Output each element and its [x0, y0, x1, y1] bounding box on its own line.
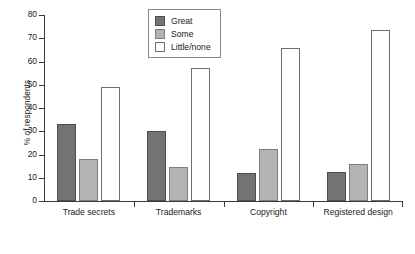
bar-great [327, 172, 346, 201]
y-axis-tick-mark [39, 155, 44, 156]
y-axis-tick-label: 60 [28, 56, 37, 67]
bar-chart: % of respondents 01020304050607080 Trade… [0, 0, 415, 254]
bar-great [237, 173, 256, 201]
legend-item-great: Great [155, 14, 211, 27]
legend-item-label: Some [171, 29, 193, 39]
y-axis-tick-mark [39, 38, 44, 39]
legend-swatch-little-icon [155, 42, 165, 52]
x-axis-category-label: Trade secrets [63, 207, 115, 217]
y-axis-tick-label: 40 [28, 102, 37, 113]
bar-some [349, 164, 368, 201]
y-axis-tick-mark [39, 131, 44, 132]
y-axis-tick-label: 20 [28, 149, 37, 160]
y-axis-tick-label: 70 [28, 32, 37, 43]
bar-some [169, 167, 188, 201]
bar-little [281, 48, 300, 201]
y-axis-tick-mark [39, 201, 44, 202]
y-axis-tick-mark [39, 108, 44, 109]
x-axis-category-label: Trademarks [156, 207, 202, 217]
bar-great [57, 124, 76, 201]
bar-some [259, 149, 278, 201]
legend-item-little: Little/none [155, 40, 211, 53]
y-axis-tick-label: 0 [32, 195, 37, 206]
y-axis-tick-label: 50 [28, 79, 37, 90]
y-axis-tick-mark [39, 178, 44, 179]
bar-little [101, 87, 120, 201]
y-axis-tick-mark [39, 62, 44, 63]
bar-some [79, 159, 98, 201]
x-axis-tick-mark [134, 202, 135, 207]
y-axis-tick-mark [39, 85, 44, 86]
plot-area: 01020304050607080 [44, 15, 403, 202]
legend-item-label: Little/none [171, 42, 211, 52]
bar-little [191, 68, 210, 201]
y-axis-tick-label: 30 [28, 125, 37, 136]
y-axis-line [44, 15, 45, 202]
x-axis-tick-mark [313, 202, 314, 207]
legend-swatch-some-icon [155, 29, 165, 39]
legend-item-some: Some [155, 27, 211, 40]
chart-legend: GreatSomeLittle/none [148, 9, 221, 58]
legend-swatch-great-icon [155, 16, 165, 26]
y-axis-tick-mark [39, 15, 44, 16]
x-axis-tick-mark [224, 202, 225, 207]
bar-little [371, 30, 390, 201]
y-axis-tick-label: 80 [28, 9, 37, 20]
x-axis-category-label: Registered design [323, 207, 392, 217]
legend-item-label: Great [171, 16, 193, 26]
y-axis-tick-label: 10 [28, 172, 37, 183]
x-axis-category-label: Copyright [250, 207, 287, 217]
bar-great [147, 131, 166, 201]
x-axis-tick-mark [402, 202, 403, 207]
